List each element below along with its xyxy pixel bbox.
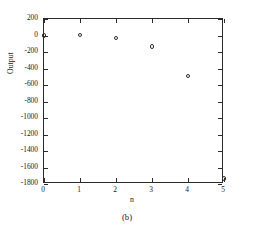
y-tick-label: -1200 bbox=[21, 130, 38, 137]
x-axis-title: n bbox=[0, 196, 254, 204]
y-tick-label: 200 bbox=[27, 14, 38, 21]
y-tick-mark-right bbox=[218, 52, 222, 53]
x-tick-mark bbox=[80, 178, 81, 182]
y-tick-label: -400 bbox=[24, 64, 38, 71]
y-tick-label: -600 bbox=[24, 80, 38, 87]
x-tick-mark-top bbox=[116, 19, 117, 23]
y-tick-label: -1000 bbox=[21, 113, 38, 120]
figure-container: 2000-200-400-600-800-1000-1200-1400-1600… bbox=[0, 0, 254, 232]
y-tick-mark bbox=[44, 102, 48, 103]
x-tick-label: 4 bbox=[175, 186, 199, 193]
scatter-series bbox=[44, 19, 222, 182]
x-tick-label: 2 bbox=[103, 186, 127, 193]
y-tick-mark bbox=[44, 135, 48, 136]
x-tick-mark-top bbox=[44, 19, 45, 23]
x-tick-mark bbox=[224, 178, 225, 182]
y-tick-mark bbox=[44, 36, 48, 37]
y-tick-mark-right bbox=[218, 135, 222, 136]
y-tick-mark-right bbox=[218, 102, 222, 103]
x-tick-mark-top bbox=[80, 19, 81, 23]
data-point-marker bbox=[114, 36, 119, 41]
x-tick-label: 5 bbox=[211, 186, 235, 193]
y-tick-mark-right bbox=[218, 69, 222, 70]
y-tick-mark bbox=[44, 118, 48, 119]
x-tick-mark bbox=[152, 178, 153, 182]
data-point-marker bbox=[186, 74, 191, 79]
x-tick-label: 0 bbox=[31, 186, 55, 193]
y-tick-mark-right bbox=[218, 36, 222, 37]
y-tick-mark bbox=[44, 69, 48, 70]
x-tick-mark bbox=[188, 178, 189, 182]
x-tick-mark-top bbox=[188, 19, 189, 23]
x-tick-mark bbox=[44, 178, 45, 182]
plot-area bbox=[43, 18, 223, 183]
y-tick-mark bbox=[44, 52, 48, 53]
y-tick-mark bbox=[44, 151, 48, 152]
data-point-marker bbox=[150, 44, 155, 49]
y-tick-label: -1600 bbox=[21, 163, 38, 170]
figure-caption: (b) bbox=[0, 213, 254, 222]
y-tick-label: -800 bbox=[24, 97, 38, 104]
x-tick-label: 3 bbox=[139, 186, 163, 193]
y-tick-mark bbox=[44, 168, 48, 169]
x-tick-label: 1 bbox=[67, 186, 91, 193]
x-tick-mark-top bbox=[152, 19, 153, 23]
y-axis-title: Output bbox=[7, 52, 15, 74]
x-tick-mark-top bbox=[224, 19, 225, 23]
y-tick-mark-right bbox=[218, 168, 222, 169]
y-tick-label: -200 bbox=[24, 47, 38, 54]
y-tick-label: 0 bbox=[34, 31, 38, 38]
y-tick-mark bbox=[44, 85, 48, 86]
y-tick-mark-right bbox=[218, 19, 222, 20]
data-point-marker bbox=[78, 33, 83, 38]
x-tick-mark bbox=[116, 178, 117, 182]
y-tick-label: -1400 bbox=[21, 146, 38, 153]
y-tick-mark-right bbox=[218, 151, 222, 152]
y-tick-mark-right bbox=[218, 118, 222, 119]
y-tick-mark-right bbox=[218, 85, 222, 86]
